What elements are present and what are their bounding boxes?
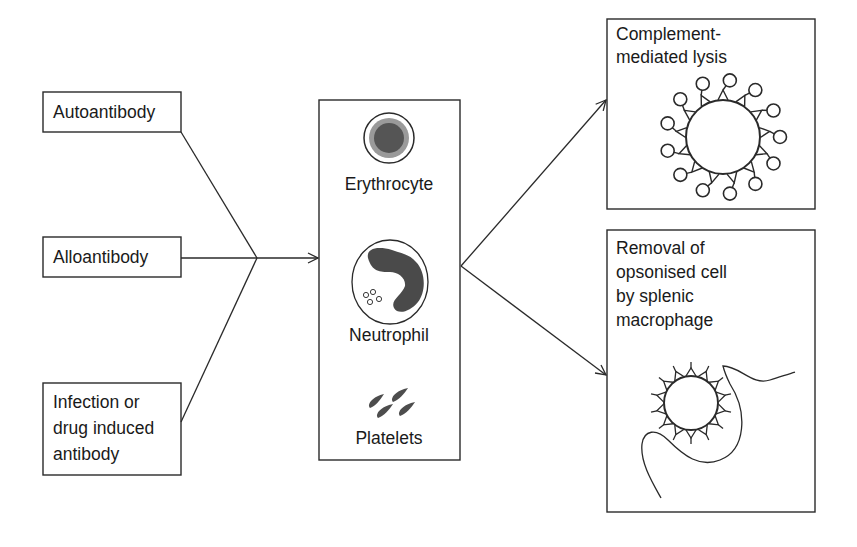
target-cells-panel: Erythrocyte Neutrophil Platelets bbox=[319, 100, 460, 460]
cause-infection-drug: Infection or drug induced antibody bbox=[43, 383, 181, 475]
complement-icon bbox=[767, 157, 780, 170]
connector-autoantibody bbox=[181, 132, 257, 258]
arrow-to-complement-lysis bbox=[461, 100, 606, 266]
target-cell bbox=[664, 376, 718, 430]
complement-icon bbox=[696, 77, 709, 90]
complement-icon bbox=[723, 74, 736, 87]
arrow-to-splenic-removal bbox=[461, 266, 606, 375]
erythrocyte-icon bbox=[364, 113, 414, 163]
complement-icon bbox=[661, 117, 674, 130]
complement-icon bbox=[661, 144, 674, 157]
neutrophil-icon bbox=[352, 240, 428, 324]
outcome-label-line-2: opsonised cell bbox=[616, 262, 727, 282]
platelets-label: Platelets bbox=[355, 428, 422, 448]
target-cell bbox=[686, 100, 760, 174]
neutrophil-label: Neutrophil bbox=[349, 325, 429, 345]
erythrocyte-label: Erythrocyte bbox=[345, 174, 434, 194]
cause-label: Autoantibody bbox=[53, 102, 155, 122]
complement-icon bbox=[674, 93, 687, 106]
outcome-label-line-2: mediated lysis bbox=[616, 47, 727, 67]
complement-icon bbox=[767, 104, 780, 117]
complement-icon bbox=[674, 168, 687, 181]
cause-label-line-2: drug induced bbox=[53, 418, 154, 438]
cause-label: Alloantibody bbox=[53, 247, 149, 267]
outcome-label-line-4: macrophage bbox=[616, 310, 713, 330]
outcome-splenic-removal: Removal of opsonised cell by splenic mac… bbox=[607, 230, 815, 512]
cause-label-line-3: antibody bbox=[53, 444, 119, 464]
complement-icon bbox=[774, 130, 787, 143]
outcome-label-line-1: Removal of bbox=[616, 238, 705, 258]
complement-icon bbox=[749, 177, 762, 190]
connector-infection-drug bbox=[181, 258, 257, 422]
cause-autoantibody: Autoantibody bbox=[43, 92, 181, 132]
cause-alloantibody: Alloantibody bbox=[43, 237, 181, 277]
complement-icon bbox=[696, 184, 709, 197]
outcome-complement-lysis: Complement- mediated lysis bbox=[607, 19, 815, 209]
outcome-label-line-3: by splenic bbox=[616, 286, 694, 306]
complement-icon bbox=[749, 84, 762, 97]
complement-icon bbox=[723, 187, 736, 200]
outcome-label-line-1: Complement- bbox=[616, 24, 721, 44]
cause-label-line-1: Infection or bbox=[53, 392, 140, 412]
diagram-canvas: Autoantibody Alloantibody Infection or d… bbox=[0, 0, 857, 547]
